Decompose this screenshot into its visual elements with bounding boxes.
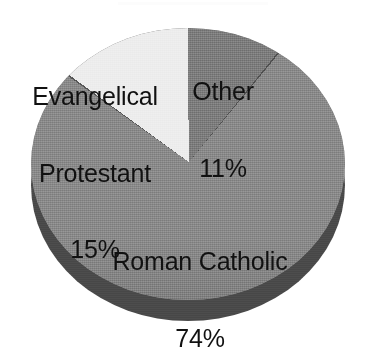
slice-label-catholic-line1: Roman Catholic (96, 249, 304, 275)
slice-label-evangelical-line1: Evangelical (14, 84, 176, 110)
slice-label-roman-catholic: Roman Catholic 74% (96, 198, 304, 351)
slice-value-catholic: 74% (96, 326, 304, 351)
slice-label-evangelical-line2: Protestant (14, 161, 176, 187)
slice-label-other-line1: Other (168, 79, 278, 105)
scan-artifact-line (118, 2, 268, 5)
slice-value-other: 11% (168, 156, 278, 182)
